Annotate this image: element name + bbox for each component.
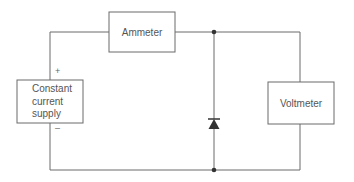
ammeter-text: Ammeter (122, 27, 163, 38)
supply-line-3: supply (32, 108, 72, 121)
diode-icon (208, 119, 220, 129)
supply-label: Constant current supply (32, 83, 72, 121)
voltmeter-text: Voltmeter (280, 98, 322, 109)
supply-line-2: current (32, 96, 72, 109)
supply-line-1: Constant (32, 83, 72, 96)
voltmeter-label: Voltmeter (268, 82, 334, 124)
junction-top-icon (212, 30, 217, 35)
junction-bottom-icon (212, 168, 217, 173)
ammeter-label: Ammeter (109, 12, 175, 52)
negative-terminal-label: – (55, 123, 60, 133)
positive-terminal-label: + (55, 66, 60, 76)
